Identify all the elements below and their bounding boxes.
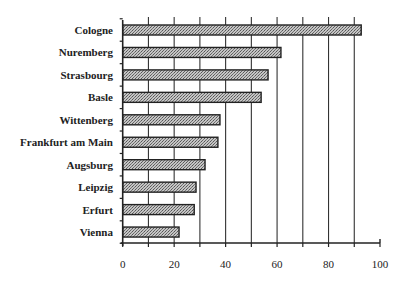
- bar-nuremberg: [123, 47, 281, 57]
- bar-vienna: [123, 227, 179, 237]
- bar-basle: [123, 92, 261, 102]
- bar-cologne: [123, 25, 362, 35]
- bar-augsburg: [123, 160, 205, 170]
- bar-erfurt: [123, 205, 195, 215]
- category-label: Cologne: [75, 24, 114, 36]
- category-label: Basle: [88, 91, 113, 103]
- x-tick-label: 60: [272, 258, 284, 270]
- bars: [123, 25, 362, 237]
- bar-wittenberg: [123, 115, 220, 125]
- x-tick-label: 20: [169, 258, 181, 270]
- x-tick-label: 80: [323, 258, 335, 270]
- category-label: Vienna: [80, 226, 114, 238]
- x-tick-label: 100: [372, 258, 389, 270]
- category-labels: CologneNurembergStrasbourgBasleWittenber…: [20, 24, 113, 238]
- x-tick-label: 0: [120, 258, 126, 270]
- category-label: Strasbourg: [60, 69, 113, 81]
- bar-leipzig: [123, 182, 196, 192]
- category-label: Augsburg: [67, 159, 114, 171]
- bar-strasbourg: [123, 70, 268, 80]
- category-label: Frankfurt am Main: [20, 136, 113, 148]
- category-label: Nuremberg: [59, 46, 114, 58]
- x-tick-label: 40: [220, 258, 232, 270]
- category-label: Wittenberg: [59, 114, 113, 126]
- category-label: Erfurt: [82, 204, 113, 216]
- category-label: Leipzig: [78, 181, 113, 193]
- bar-chart: CologneNurembergStrasbourgBasleWittenber…: [0, 0, 401, 283]
- x-tick-labels: 020406080100: [120, 258, 389, 270]
- bar-frankfurt-am-main: [123, 137, 218, 147]
